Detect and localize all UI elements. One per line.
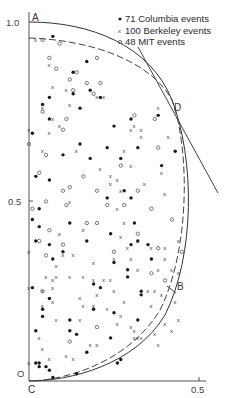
berkeley-point: x <box>112 256 115 262</box>
berkeley-point: x <box>27 360 30 366</box>
berkeley-point: x <box>51 285 54 291</box>
columbia-point <box>34 329 37 332</box>
mit-point <box>61 243 64 246</box>
berkeley-point: x <box>116 206 119 212</box>
outer-boundary-curve <box>29 22 188 381</box>
mit-point <box>68 78 71 81</box>
berkeley-point: x <box>153 288 156 294</box>
columbia-point <box>119 157 122 160</box>
columbia-point <box>123 189 126 192</box>
mit-point <box>180 250 183 253</box>
mit-point <box>136 232 139 235</box>
columbia-point <box>140 293 143 296</box>
mit-point <box>68 185 71 188</box>
berkeley-point: x <box>109 277 112 283</box>
berkeley-point: x <box>146 288 149 294</box>
columbia-point <box>78 142 81 145</box>
mit-point <box>38 171 41 174</box>
columbia-point <box>126 275 129 278</box>
mit-point <box>99 81 102 84</box>
mit-point <box>119 164 122 167</box>
berkeley-point: x <box>129 256 132 262</box>
mit-point <box>61 128 64 131</box>
columbia-point <box>68 329 71 332</box>
mit-point <box>106 203 109 206</box>
columbia-point <box>48 369 51 372</box>
berkeley-point: x <box>163 245 166 251</box>
legend-columbia-dot-icon <box>118 17 121 20</box>
berkeley-point: x <box>119 234 122 240</box>
berkeley-point: x <box>160 170 163 176</box>
berkeley-point: x <box>150 303 153 309</box>
columbia-point <box>116 361 119 364</box>
columbia-point <box>34 175 37 178</box>
berkeley-point: x <box>95 292 98 298</box>
berkeley-point: x <box>133 328 136 334</box>
berkeley-point: x <box>156 342 159 348</box>
columbia-point <box>75 333 78 336</box>
berkeley-point: x <box>34 37 37 43</box>
berkeley-point: x <box>112 288 115 294</box>
mit-point <box>157 246 160 249</box>
berkeley-point: x <box>27 127 30 133</box>
berkeley-point: x <box>51 116 54 122</box>
y-tick-label-0.5: 0.5 <box>8 196 21 207</box>
legend-mit-label: 48 MIT events <box>125 36 185 47</box>
mit-point <box>163 279 166 282</box>
berkeley-point: x <box>122 220 125 226</box>
berkeley-point: x <box>170 328 173 334</box>
berkeley-point: x <box>150 245 153 251</box>
legend-columbia-label: 71 Columbia events <box>125 13 209 24</box>
columbia-point <box>48 178 51 181</box>
mit-point <box>72 89 75 92</box>
columbia-point <box>109 232 112 235</box>
columbia-point <box>78 106 81 109</box>
columbia-point <box>89 89 92 92</box>
mit-point <box>85 81 88 84</box>
columbia-point <box>51 257 54 260</box>
berkeley-point: x <box>136 267 139 273</box>
berkeley-point: x <box>102 277 105 283</box>
mit-point <box>85 221 88 224</box>
dalitz-scatter-plot: 1.0 0.5 0.5 O A D B C xxxxxxxxxxxxxxxxxx… <box>0 0 227 398</box>
berkeley-point: x <box>92 303 95 309</box>
berkeley-point: x <box>48 130 51 136</box>
berkeley-point: x <box>109 181 112 187</box>
berkeley-point: x <box>51 299 54 305</box>
columbia-point <box>157 114 160 117</box>
berkeley-point: x <box>48 356 51 362</box>
columbia-point <box>140 290 143 293</box>
mit-point <box>44 200 47 203</box>
berkeley-point: x <box>65 87 68 93</box>
mit-point <box>123 203 126 206</box>
berkeley-point: x <box>126 245 129 251</box>
berkeley-point: x <box>41 148 44 154</box>
legend: 71 Columbia events x 100 Berkeley events… <box>118 13 211 47</box>
mit-point <box>75 71 78 74</box>
columbia-point <box>38 225 41 228</box>
point-label-D: D <box>174 102 181 113</box>
columbia-point <box>106 196 109 199</box>
columbia-point <box>133 221 136 224</box>
berkeley-point: x <box>163 191 166 197</box>
columbia-point <box>61 153 64 156</box>
berkeley-point: x <box>71 356 74 362</box>
berkeley-point: x <box>75 148 78 154</box>
columbia-point <box>31 218 34 221</box>
berkeley-point: x <box>54 274 57 280</box>
berkeley-point: x <box>102 94 105 100</box>
columbia-point <box>68 221 71 224</box>
berkeley-point: x <box>95 342 98 348</box>
berkeley-point: x <box>58 231 61 237</box>
berkeley-point: x <box>160 292 163 298</box>
columbia-point <box>41 315 44 318</box>
mit-point <box>150 272 153 275</box>
berkeley-point: x <box>78 317 81 323</box>
columbia-point <box>72 71 75 74</box>
columbia-point <box>109 336 112 339</box>
columbia-point <box>85 351 88 354</box>
berkeley-point: x <box>82 274 85 280</box>
mit-point <box>153 117 156 120</box>
columbia-point <box>112 124 115 127</box>
berkeley-point: x <box>129 127 132 133</box>
